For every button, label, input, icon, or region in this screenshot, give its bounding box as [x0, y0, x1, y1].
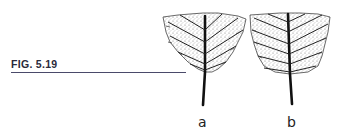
leaf-b — [250, 13, 330, 104]
panel-label-a: a — [198, 114, 207, 130]
panel-label-b: b — [287, 114, 296, 130]
leaf-a — [163, 13, 246, 105]
